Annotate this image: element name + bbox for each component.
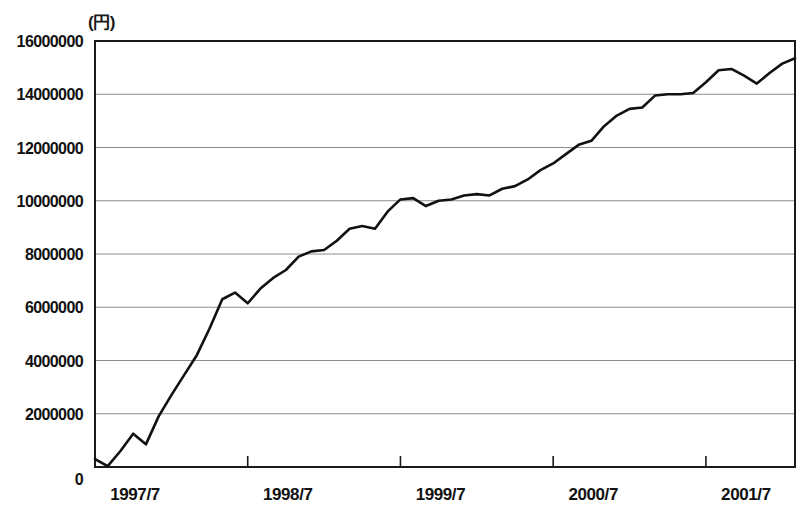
y-axis-tick-label: 16000000 xyxy=(17,33,84,50)
y-axis-tick-label: 0 xyxy=(75,471,84,488)
data-series-line xyxy=(95,58,795,466)
x-axis-tick-label: 1998/7 xyxy=(263,485,313,504)
y-axis-tick-label: 8000000 xyxy=(25,246,84,263)
y-axis-tick-label: 2000000 xyxy=(25,406,84,423)
y-axis-tick-label: 10000000 xyxy=(17,193,84,210)
x-axis-tick-label: 2001/7 xyxy=(721,485,771,504)
y-axis-tick-label: 14000000 xyxy=(17,86,84,103)
chart-page: (円) 020000004000000600000080000001000000… xyxy=(0,0,806,519)
x-axis-tick-labels: 1997/71998/71999/72000/72001/7 xyxy=(110,485,771,504)
y-axis-tick-labels: 0200000040000006000000800000010000000120… xyxy=(17,33,84,488)
y-axis-tick-label: 4000000 xyxy=(25,353,84,370)
gridlines xyxy=(95,94,795,414)
line-chart: 0200000040000006000000800000010000000120… xyxy=(0,0,806,519)
x-axis-tick-label: 1999/7 xyxy=(416,485,466,504)
y-axis-tick-label: 12000000 xyxy=(17,140,84,157)
x-axis-tick-label: 1997/7 xyxy=(110,485,160,504)
x-axis-tick-marks xyxy=(248,456,706,467)
y-axis-tick-label: 6000000 xyxy=(25,299,84,316)
x-axis-tick-label: 2000/7 xyxy=(568,485,618,504)
